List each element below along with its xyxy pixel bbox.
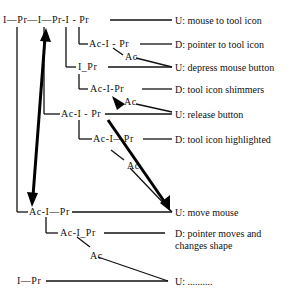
label-d-tool-icon-highlighted: D: tool icon highlighted	[175, 134, 271, 145]
label-u-ellipsis: U: ..........	[175, 276, 213, 287]
node-root: I—Pr—I—Pr-I - Pr	[3, 14, 89, 25]
node-1: Ac-I - Pr	[89, 38, 129, 49]
node-3: Ac-I-Pr	[90, 83, 124, 94]
label-u-release-button: U: release button	[175, 109, 243, 120]
node-7-ac: Ac	[90, 250, 103, 261]
label-u-mouse-to-tool-icon: U: mouse to tool icon	[175, 15, 262, 26]
label-d-pointer-to-tool-icon: D: pointer to tool icon	[175, 39, 264, 50]
node-1-ac: Ac	[125, 51, 138, 62]
label-d-pointer-moves: D: pointer moves and	[175, 228, 261, 239]
node-4: Ac-I - Pr	[61, 108, 101, 119]
node-3-ac: Ac	[124, 96, 137, 107]
node-2: I_Pr	[78, 61, 97, 72]
label-changes-shape: changes shape	[175, 240, 232, 251]
node-6: Ac-I—Pr	[29, 206, 70, 217]
node-8: I—Pr	[17, 275, 41, 286]
node-7: Ac-I_Pr	[60, 227, 96, 238]
node-5: Ac-I—Pr	[93, 133, 134, 144]
label-u-depress-mouse-button: U: depress mouse button	[175, 62, 274, 73]
node-5-ac: Ac	[127, 160, 140, 171]
label-u-move-mouse: U: move mouse	[175, 207, 238, 218]
label-d-tool-icon-shimmers: D: tool icon shimmers	[175, 84, 264, 95]
